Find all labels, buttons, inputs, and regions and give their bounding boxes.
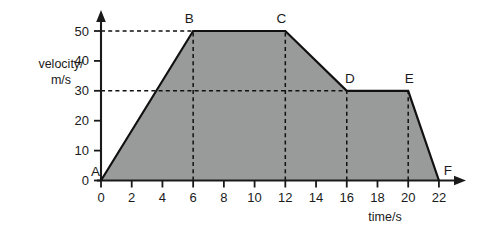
x-tick-label-16: 16: [340, 190, 354, 205]
x-tick-label-12: 12: [278, 190, 292, 205]
point-label-f: F: [444, 163, 452, 178]
x-tick-label-22: 22: [432, 190, 446, 205]
area-under-curve: [101, 31, 439, 181]
graph-svg: 0246810121416182022 01020304050 ABCDEF v…: [0, 0, 484, 238]
x-tick-label-2: 2: [128, 190, 135, 205]
y-tick-label-0: 0: [82, 173, 89, 188]
y-axis-tick-labels: 01020304050: [75, 24, 89, 189]
x-tick-label-8: 8: [220, 190, 227, 205]
point-label-c: C: [276, 11, 286, 26]
y-tick-label-50: 50: [75, 24, 89, 39]
x-tick-label-4: 4: [159, 190, 166, 205]
point-label-b: B: [185, 11, 194, 26]
y-tick-label-10: 10: [75, 143, 89, 158]
x-axis-tick-labels: 0246810121416182022: [97, 190, 446, 205]
x-tick-label-0: 0: [97, 190, 104, 205]
x-tick-label-20: 20: [401, 190, 415, 205]
x-tick-label-14: 14: [309, 190, 323, 205]
point-label-d: D: [345, 71, 355, 86]
y-axis-label-line2: m/s: [51, 73, 71, 87]
x-tick-label-10: 10: [247, 190, 261, 205]
x-axis-label: time/s: [368, 210, 401, 224]
point-label-a: A: [91, 164, 100, 179]
point-label-e: E: [405, 71, 414, 86]
x-tick-label-6: 6: [190, 190, 197, 205]
y-axis-label-line1: velocity/: [38, 57, 84, 71]
velocity-time-graph: 0246810121416182022 01020304050 ABCDEF v…: [0, 0, 484, 238]
x-axis-arrowhead: [454, 176, 466, 186]
x-tick-label-18: 18: [370, 190, 384, 205]
y-axis-arrowhead: [96, 10, 106, 22]
y-tick-label-30: 30: [75, 83, 89, 98]
y-tick-label-20: 20: [75, 113, 89, 128]
